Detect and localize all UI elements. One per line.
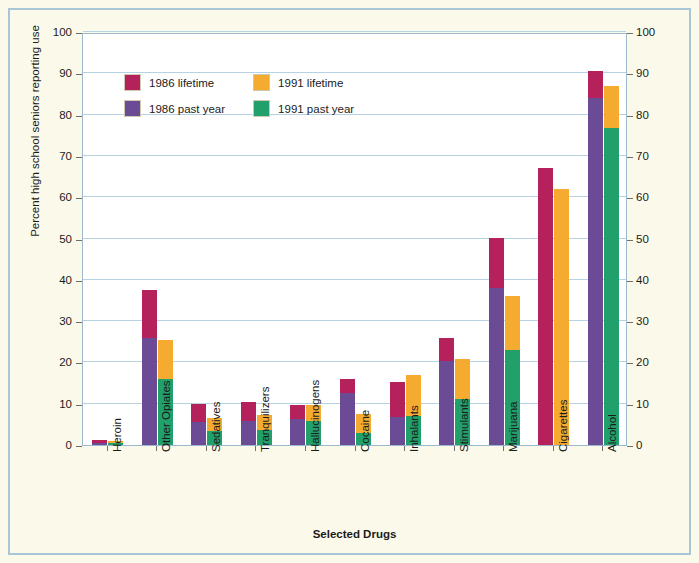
- bar-segment-past-year: [439, 361, 454, 445]
- y-tick-label-left: 70: [59, 151, 72, 163]
- y-tick-label-left: 100: [53, 27, 72, 39]
- bar-segment-past-year: [92, 443, 107, 445]
- x-tick-label: Heroin: [112, 418, 124, 452]
- y-axis-title: Percent high school seniors reporting us…: [29, 16, 41, 246]
- y-tick-label-right: 70: [636, 151, 649, 163]
- bar-1991-alcohol: [604, 86, 619, 445]
- bar-1986-marijuana: [489, 238, 504, 445]
- bar-segment-past-year: [390, 417, 405, 445]
- y-tick-label-left: 60: [59, 192, 72, 204]
- x-tick-label: Tranquilizers: [260, 387, 272, 452]
- legend-swatch: [124, 74, 141, 91]
- y-tick-label-left: 90: [59, 68, 72, 80]
- legend-item: 1991 past year: [253, 100, 354, 117]
- bar-segment-past-year: [604, 128, 619, 445]
- x-tick-mark: [602, 446, 603, 451]
- bar-1986-hallucinogens: [290, 405, 305, 445]
- legend-label: 1991 past year: [278, 103, 354, 115]
- y-tick-mark-right: [627, 240, 633, 241]
- y-tick-mark-left: [76, 446, 82, 447]
- legend-swatch: [253, 100, 270, 117]
- bar-1986-cigarettes: [538, 168, 553, 445]
- y-tick-mark-right: [627, 405, 633, 406]
- legend-item: 1986 lifetime: [124, 74, 225, 91]
- x-tick-mark: [454, 446, 455, 451]
- y-tick-label-right: 80: [636, 110, 649, 122]
- bar-segment-past-year: [290, 419, 305, 445]
- y-tick-label-left: 20: [59, 357, 72, 369]
- legend-swatch: [253, 74, 270, 91]
- y-tick-label-right: 40: [636, 275, 649, 287]
- chart-figure: Percent high school seniors reporting us…: [0, 0, 699, 563]
- y-tick-mark-right: [627, 446, 633, 447]
- bar-1986-alcohol: [588, 71, 603, 445]
- x-tick-mark: [355, 446, 356, 451]
- y-tick-label-right: 90: [636, 68, 649, 80]
- y-tick-mark-right: [627, 363, 633, 364]
- gridline: [83, 31, 626, 32]
- x-tick-label: Marijuana: [508, 402, 520, 453]
- bar-segment-past-year: [588, 98, 603, 445]
- bar-1986-inhalants: [390, 382, 405, 445]
- x-axis-title: Selected Drugs: [82, 528, 627, 540]
- y-tick-label-left: 80: [59, 110, 72, 122]
- y-tick-label-left: 10: [59, 399, 72, 411]
- x-tick-label: Alcohol: [607, 414, 619, 452]
- y-tick-label-left: 50: [59, 234, 72, 246]
- x-tick-mark: [305, 446, 306, 451]
- legend-label: 1991 lifetime: [278, 77, 343, 89]
- bar-segment-past-year: [340, 393, 355, 445]
- legend-item: 1986 past year: [124, 100, 225, 117]
- bar-1986-heroin: [92, 440, 107, 445]
- legend-label: 1986 lifetime: [149, 77, 214, 89]
- x-tick-label: Stimulants: [459, 398, 471, 452]
- y-tick-mark-right: [627, 33, 633, 34]
- y-tick-label-right: 0: [636, 440, 642, 452]
- bar-segment-past-year: [241, 421, 256, 445]
- x-tick-mark: [255, 446, 256, 451]
- x-tick-mark: [503, 446, 504, 451]
- y-tick-mark-right: [627, 281, 633, 282]
- bar-1986-stimulants: [439, 338, 454, 445]
- y-tick-mark-right: [627, 198, 633, 199]
- bar-segment-past-year: [489, 288, 504, 445]
- y-tick-label-left: 30: [59, 316, 72, 328]
- x-tick-label: Inhalants: [409, 405, 421, 452]
- bar-1986-cocaine: [340, 379, 355, 445]
- bar-1986-sedatives: [191, 404, 206, 445]
- x-tick-label: Cocaine: [360, 410, 372, 452]
- bar-1986-other-opiates: [142, 290, 157, 445]
- x-tick-mark: [206, 446, 207, 451]
- x-tick-label: Hallucinogens: [310, 380, 322, 452]
- y-tick-label-right: 50: [636, 234, 649, 246]
- y-tick-label-right: 10: [636, 399, 649, 411]
- x-tick-mark: [156, 446, 157, 451]
- y-tick-label-left: 40: [59, 275, 72, 287]
- bar-segment-lifetime: [538, 168, 553, 445]
- y-tick-label-right: 60: [636, 192, 649, 204]
- bar-segment-past-year: [191, 422, 206, 445]
- legend: 1986 lifetime1991 lifetime1986 past year…: [124, 74, 354, 117]
- y-tick-mark-right: [627, 116, 633, 117]
- x-tick-label: Sedatives: [211, 401, 223, 452]
- y-tick-mark-right: [627, 322, 633, 323]
- x-tick-mark: [404, 446, 405, 451]
- x-tick-mark: [107, 446, 108, 451]
- y-tick-mark-right: [627, 74, 633, 75]
- y-tick-label-right: 20: [636, 357, 649, 369]
- y-tick-label-left: 0: [66, 440, 72, 452]
- y-tick-label-right: 100: [636, 27, 655, 39]
- y-tick-label-right: 30: [636, 316, 649, 328]
- legend-item: 1991 lifetime: [253, 74, 354, 91]
- gridline: [83, 155, 626, 156]
- x-tick-mark: [553, 446, 554, 451]
- y-tick-mark-right: [627, 157, 633, 158]
- x-tick-label: Other Opiates: [161, 380, 173, 452]
- x-tick-label: Cigarettes: [558, 400, 570, 452]
- legend-label: 1986 past year: [149, 103, 225, 115]
- legend-swatch: [124, 100, 141, 117]
- bar-segment-past-year: [142, 338, 157, 445]
- bar-1986-tranquilizers: [241, 402, 256, 445]
